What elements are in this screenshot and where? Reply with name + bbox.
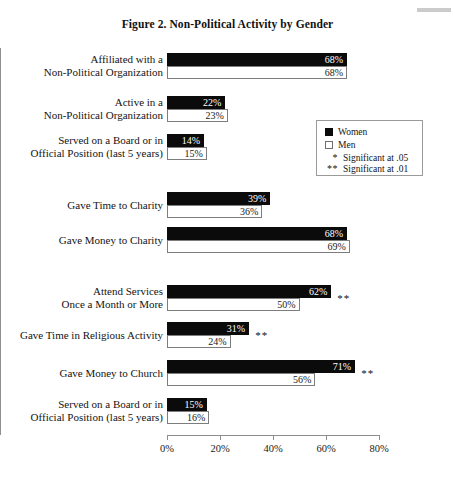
category-label: Gave Time in Religious Activity — [20, 329, 163, 342]
bar-value-men: 68% — [325, 68, 343, 78]
bar-value-women: 39% — [248, 194, 266, 204]
category-label: Gave Money to Charity — [59, 234, 163, 247]
bar-value-women: 68% — [325, 229, 343, 239]
bar-men: 50% — [167, 298, 300, 311]
category-label: Affiliated with aNon-Political Organizat… — [44, 53, 163, 78]
x-axis-tick-label: 40% — [263, 443, 282, 454]
legend-item-sig05: * Significant at .05 — [325, 152, 422, 163]
bar-value-men: 56% — [293, 375, 311, 385]
bar-women: 71% — [167, 360, 355, 373]
category-label-line: Served on a Board or in — [31, 134, 163, 147]
bar-value-women: 71% — [333, 362, 351, 372]
bar-men: 56% — [167, 373, 315, 386]
legend-swatch-men-icon — [325, 141, 333, 149]
x-axis-tick — [220, 435, 221, 440]
bar-value-men: 15% — [184, 149, 202, 159]
bar-women: 62% — [167, 285, 331, 298]
x-axis-tick — [167, 435, 168, 440]
bar-women: 68% — [167, 227, 347, 240]
category-label-line: Once a Month or More — [62, 298, 163, 311]
bar-value-women: 68% — [325, 55, 343, 65]
category-label-line: Official Position (last 5 years) — [31, 147, 163, 160]
x-axis-tick — [326, 435, 327, 440]
category-label: Gave Money to Church — [59, 367, 163, 380]
category-label-line: Served on a Board or in — [31, 398, 163, 411]
x-axis-tick-label: 20% — [210, 443, 229, 454]
category-label-line: Gave Money to Charity — [59, 234, 163, 247]
y-axis-line — [0, 48, 1, 435]
legend-star-double-icon: ** — [325, 163, 338, 174]
bar-women: 39% — [167, 192, 270, 205]
legend: Women Men * Significant at .05 ** Signif… — [316, 120, 423, 176]
legend-label-men: Men — [338, 140, 355, 150]
bar-value-women: 15% — [184, 400, 202, 410]
category-label: Attend ServicesOnce a Month or More — [62, 285, 163, 310]
category-label-line: Official Position (last 5 years) — [31, 411, 163, 424]
category-label: Gave Time to Charity — [67, 199, 163, 212]
bar-women: 15% — [167, 398, 207, 411]
bar-women: 31% — [167, 322, 249, 335]
x-axis-tick-label: 60% — [316, 443, 335, 454]
x-axis-tick — [273, 435, 274, 440]
legend-label-sig05: Significant at .05 — [343, 153, 408, 163]
x-axis-tick — [379, 435, 380, 440]
page-title: Figure 2. Non-Political Activity by Gend… — [0, 18, 455, 30]
bar-value-men: 69% — [328, 242, 346, 252]
significance-marker: ** — [361, 367, 374, 380]
bar-men: 16% — [167, 411, 209, 424]
bar-men: 68% — [167, 66, 347, 79]
category-label-line: Gave Money to Church — [59, 367, 163, 380]
bar-men: 23% — [167, 109, 228, 122]
category-label: Active in aNon-Political Organization — [44, 96, 163, 121]
bar-women: 22% — [167, 96, 225, 109]
figure-container: Figure 2. Non-Political Activity by Gend… — [0, 0, 455, 477]
category-label-line: Gave Time in Religious Activity — [20, 329, 163, 342]
category-label-line: Affiliated with a — [44, 53, 163, 66]
bar-women: 14% — [167, 134, 204, 147]
legend-star-single-icon: * — [325, 152, 338, 163]
significance-marker: ** — [337, 292, 350, 305]
category-label: Served on a Board or inOfficial Position… — [31, 398, 163, 423]
bar-men: 69% — [167, 240, 350, 253]
bar-value-women: 62% — [309, 287, 327, 297]
legend-item-sig01: ** Significant at .01 — [325, 163, 422, 174]
x-axis-tick-label: 80% — [369, 443, 388, 454]
scan-artifact — [417, 8, 451, 12]
category-label-line: Attend Services — [62, 285, 163, 298]
bar-men: 24% — [167, 335, 231, 348]
bar-value-women: 31% — [227, 324, 245, 334]
legend-label-women: Women — [338, 127, 367, 137]
x-axis-tick-label: 0% — [160, 443, 174, 454]
bar-men: 36% — [167, 205, 262, 218]
bar-value-women: 14% — [182, 136, 200, 146]
bar-value-men: 24% — [208, 337, 226, 347]
bar-women: 68% — [167, 53, 347, 66]
bar-value-men: 36% — [240, 207, 258, 217]
legend-swatch-women-icon — [325, 128, 333, 136]
category-label-line: Active in a — [44, 96, 163, 109]
legend-label-sig01: Significant at .01 — [343, 164, 408, 174]
category-label-line: Non-Political Organization — [44, 66, 163, 79]
bar-value-women: 22% — [203, 98, 221, 108]
category-label-line: Non-Political Organization — [44, 109, 163, 122]
bar-value-men: 16% — [187, 413, 205, 423]
category-label-line: Gave Time to Charity — [67, 199, 163, 212]
significance-marker: ** — [255, 329, 268, 342]
category-label: Served on a Board or inOfficial Position… — [31, 134, 163, 159]
bar-value-men: 50% — [277, 300, 295, 310]
legend-item-women: Women — [325, 126, 422, 138]
bar-men: 15% — [167, 147, 207, 160]
legend-item-men: Men — [325, 139, 422, 151]
bar-value-men: 23% — [206, 111, 224, 121]
